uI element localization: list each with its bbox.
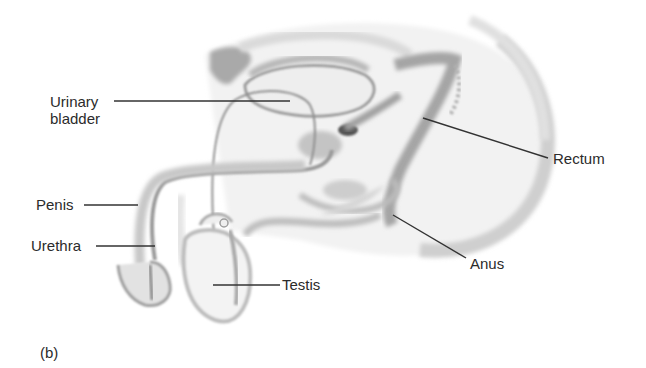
panel-label: (b) xyxy=(40,344,58,361)
label-urinary-bladder: Urinary bladder xyxy=(50,93,120,127)
label-urinary-bladder-line2: bladder xyxy=(50,110,120,127)
label-anus: Anus xyxy=(470,255,504,272)
label-urinary-bladder-line1: Urinary xyxy=(50,93,120,110)
label-testis: Testis xyxy=(282,276,320,293)
male-reproductive-anatomy-illustration xyxy=(0,0,646,368)
label-penis: Penis xyxy=(36,196,74,213)
label-urethra: Urethra xyxy=(31,237,81,254)
label-rectum: Rectum xyxy=(553,150,605,167)
